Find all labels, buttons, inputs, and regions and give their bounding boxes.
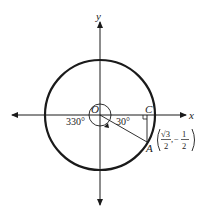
unit-circle-diagram: y x O C A 30° 330° √3 2 , − 1 2 (0, 0, 204, 214)
right-angle-marker (143, 115, 147, 119)
x-coord-numerator: √3 (161, 129, 170, 139)
point-a-label: A (145, 142, 153, 154)
x-coord-denominator: 2 (164, 141, 168, 151)
x-axis-label: x (188, 109, 194, 121)
y-coord-denominator: 2 (182, 141, 186, 151)
point-a-coordinates: √3 2 , − 1 2 (158, 129, 195, 151)
y-coord-sign: − (174, 134, 179, 144)
y-axis-label: y (95, 10, 101, 22)
angle-330-label: 330° (66, 116, 85, 127)
y-coord-numerator: 1 (182, 129, 186, 139)
angle-30-label: 30° (116, 116, 130, 127)
coord-separator: , (171, 134, 173, 144)
origin-label: O (91, 103, 99, 115)
point-c-label: C (145, 103, 153, 115)
